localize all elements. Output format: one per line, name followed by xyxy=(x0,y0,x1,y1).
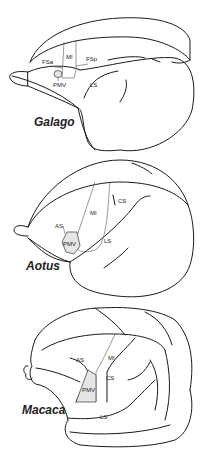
macaca-label-ls: LS xyxy=(100,414,107,420)
galago-body xyxy=(28,58,194,151)
macaca-pmv-region xyxy=(76,370,96,402)
galago-label-pmv: PMV xyxy=(53,82,66,88)
panel-aotus: AS MI CS PMV LS Aotus xyxy=(14,160,194,297)
aotus-label-as: AS xyxy=(55,223,63,229)
aotus-label-pmv: PMV xyxy=(63,241,76,247)
aotus-hemisphere-top xyxy=(28,160,188,227)
macaca-right-sulcus xyxy=(128,362,150,380)
galago-hemisphere-top xyxy=(30,18,190,63)
macaca-ridge-1 xyxy=(95,308,125,335)
macaca-frontal-sulcus xyxy=(36,368,80,382)
macaca-occipital-1 xyxy=(165,350,170,420)
macaca-inner-upper xyxy=(42,334,165,350)
macaca-occipital-2 xyxy=(150,360,158,410)
panel-macaca: AS MI CS PMV LS Macaca xyxy=(22,308,192,447)
aotus-cs-sulcus xyxy=(113,195,115,205)
galago-temporal xyxy=(78,108,95,150)
galago-label-fsa: FSa xyxy=(42,59,54,65)
macaca-cs-sulcus xyxy=(107,338,135,402)
galago-fsp-line xyxy=(76,64,88,66)
galago-sulcus-dash xyxy=(152,59,160,62)
macaca-label-as: AS xyxy=(76,357,84,363)
galago-label-mi: MI xyxy=(66,54,73,60)
aotus-label-ls: LS xyxy=(104,238,111,244)
aotus-species-title: Aotus xyxy=(25,259,60,273)
aotus-label-cs: CS xyxy=(118,198,126,204)
galago-hemisphere-mid xyxy=(30,37,190,62)
aotus-olfactory-bulb xyxy=(14,226,28,236)
galago-label-fsp: FSp xyxy=(86,56,98,62)
aotus-label-mi: MI xyxy=(90,210,97,216)
aotus-body xyxy=(28,205,194,297)
galago-species-title: Galago xyxy=(34,115,75,129)
macaca-label-pmv: PMV xyxy=(82,387,95,393)
galago-lower-sulcus xyxy=(120,80,127,102)
macaca-temporal-sulcus xyxy=(70,425,170,434)
aotus-lower-sulcus xyxy=(104,248,128,268)
macaca-species-title: Macaca xyxy=(22,403,66,417)
macaca-ridge-2 xyxy=(145,312,172,345)
galago-pmv-region xyxy=(54,71,62,78)
galago-olfactory-bulb xyxy=(10,71,28,86)
galago-label-ls: LS xyxy=(90,82,97,88)
brain-diagram: FSa MI FSp PMV LS Galago AS MI CS PMV LS… xyxy=(0,0,207,458)
macaca-label-cs: CS xyxy=(106,375,114,381)
aotus-ls-sulcus xyxy=(70,196,150,262)
panel-galago: FSa MI FSp PMV LS Galago xyxy=(10,18,194,151)
macaca-mi-boundary xyxy=(96,334,115,402)
macaca-label-mi: MI xyxy=(108,355,115,361)
aotus-as-line xyxy=(63,226,65,234)
